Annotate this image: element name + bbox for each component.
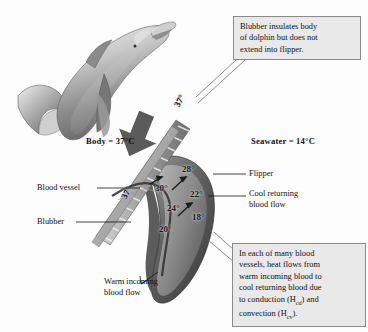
blubber-label: Blubber bbox=[37, 217, 64, 228]
convection-suffix: ). bbox=[293, 309, 298, 318]
convection-prefix: convection (H bbox=[239, 309, 287, 318]
heat-flow-callout: In each of many blood vessels, heat flow… bbox=[232, 243, 366, 327]
cool-label-line-2: blood flow bbox=[249, 200, 345, 211]
callout-top-line-2: of dolphin but does not bbox=[240, 32, 355, 43]
callout-bottom-line-3: warm incoming blood to bbox=[239, 271, 360, 282]
dolphin-illustration bbox=[18, 22, 176, 140]
callout-top-line-3: extend into flipper. bbox=[240, 44, 355, 55]
callout-top-line-1: Blubber insulates body bbox=[240, 21, 355, 32]
cool-label-line-1: Cool returning bbox=[249, 189, 345, 200]
callout-bottom-line-2: vessels, heat flows from bbox=[239, 259, 360, 270]
figure-canvas: Blubber insulates body of dolphin but do… bbox=[0, 0, 368, 332]
body-temperature-label: Body = 37°C bbox=[86, 136, 135, 146]
temperature-28: 28° bbox=[182, 164, 195, 174]
flipper-label: Flipper bbox=[249, 169, 273, 180]
conduction-prefix: to conduction (H bbox=[239, 295, 296, 304]
cool-returning-blood-flow-label: Cool returning blood flow bbox=[249, 189, 345, 210]
conduction-suffix: ) and bbox=[302, 295, 319, 304]
blood-vessel-label: Blood vessel bbox=[37, 183, 80, 194]
temperature-24: 24° bbox=[167, 203, 180, 213]
callout-bottom-line-1: In each of many blood bbox=[239, 248, 360, 259]
callout-bottom-line-5: to conduction (Hcd) and bbox=[239, 294, 360, 308]
temperature-18: 18° bbox=[192, 212, 205, 222]
temperature-30: 30° bbox=[155, 183, 168, 193]
callout-bottom-line-6: convection (Hcv). bbox=[239, 308, 360, 322]
warm-label-line-2: blood flow bbox=[104, 288, 190, 299]
warm-incoming-blood-flow-label: Warm incoming blood flow bbox=[104, 277, 190, 298]
seawater-temperature-label: Seawater = 14°C bbox=[251, 136, 315, 146]
blubber-insulation-callout: Blubber insulates body of dolphin but do… bbox=[233, 16, 361, 60]
warm-label-line-1: Warm incoming bbox=[104, 277, 190, 288]
callout-bottom-line-4: cool returning blood due bbox=[239, 282, 360, 293]
temperature-22: 22° bbox=[190, 189, 203, 199]
temperature-20: 20° bbox=[159, 224, 172, 234]
